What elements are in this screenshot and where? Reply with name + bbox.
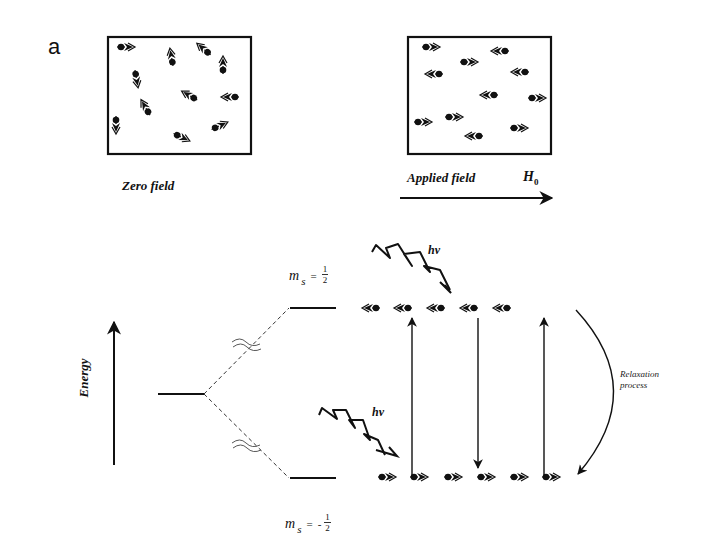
figure-canvas: a Zero field Applied field H0 Energy ms=… — [0, 0, 703, 538]
field-symbol: H0 — [523, 169, 538, 187]
spin-icon — [493, 304, 511, 312]
spin-icon — [491, 47, 509, 55]
photon-lower-icon — [319, 408, 397, 456]
spin-icon — [477, 473, 495, 481]
relaxation-arrow — [576, 310, 614, 474]
upper-level-spins — [362, 304, 511, 312]
spin-icon — [444, 473, 462, 481]
axis-break-upper-icon — [232, 339, 261, 351]
spin-icon — [172, 130, 192, 145]
lower-level-spins — [378, 473, 560, 481]
spin-icon — [445, 113, 463, 121]
axis-break-lower-icon — [232, 440, 261, 452]
applied-field-box — [408, 37, 551, 154]
spin-icon — [528, 94, 546, 102]
spin-icon — [414, 118, 432, 126]
spin-icon — [480, 91, 498, 99]
transition-arrows — [412, 318, 544, 477]
spin-icon — [511, 68, 529, 76]
energy-axis-label: Energy — [76, 359, 92, 398]
diagram-svg — [0, 0, 703, 538]
spin-icon — [425, 70, 443, 78]
spin-icon — [221, 93, 239, 101]
spin-icon — [427, 304, 445, 312]
spin-icon — [460, 304, 478, 312]
spin-icon — [362, 304, 380, 312]
lower-level-label: ms=-12 — [285, 514, 331, 535]
spin-icon — [138, 98, 154, 118]
relaxation-label: Relaxation process — [620, 369, 659, 391]
zero-field-caption: Zero field — [122, 178, 174, 194]
upper-level-label: ms=12 — [289, 266, 328, 287]
spin-icon — [112, 116, 120, 134]
photon-energy-label-upper: hν — [428, 243, 440, 258]
spin-icon — [465, 132, 483, 140]
spin-icon — [166, 47, 177, 66]
panel-label: a — [48, 34, 60, 60]
spin-icon — [460, 58, 478, 66]
spin-icon — [210, 118, 230, 133]
zeeman-splitting — [158, 308, 336, 478]
photon-energy-label-lower: hν — [372, 405, 384, 420]
spin-icon — [194, 40, 213, 58]
spin-icon — [180, 88, 200, 104]
spin-icon — [219, 56, 227, 74]
zero-field-box — [108, 37, 251, 154]
spin-icon — [131, 69, 142, 88]
spin-icon — [510, 473, 528, 481]
spin-icon — [422, 43, 440, 51]
applied-field-caption: Applied field — [407, 170, 475, 186]
spin-icon — [510, 124, 528, 132]
spin-icon — [378, 473, 396, 481]
spin-icon — [117, 43, 135, 51]
spin-icon — [394, 304, 412, 312]
